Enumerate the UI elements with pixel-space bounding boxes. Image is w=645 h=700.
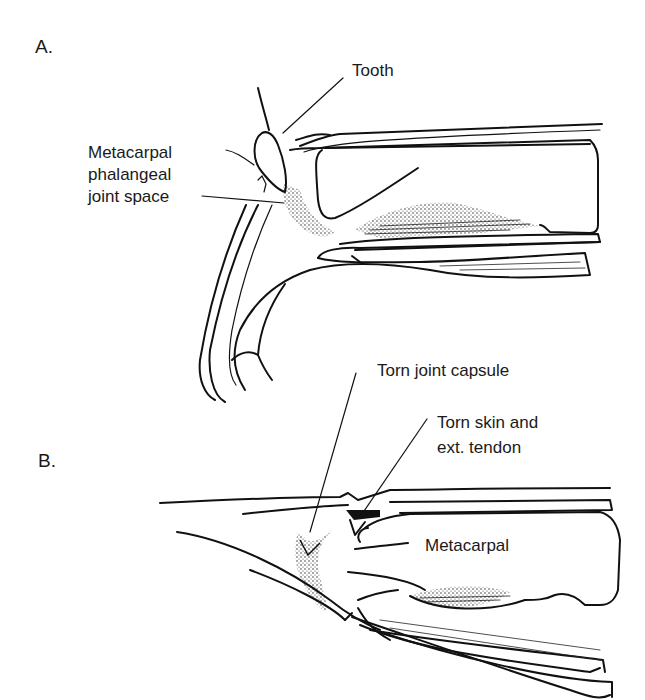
panel-b-label: B. <box>38 450 56 472</box>
torn-capsule-label: Torn joint capsule <box>377 360 509 381</box>
panel-a-label: A. <box>35 36 53 58</box>
joint-space-leader-line <box>202 196 284 203</box>
metacarpal-label: Metacarpal <box>425 535 509 556</box>
panel-b-drawing <box>160 373 620 697</box>
torn-skin-label-line-1: Torn skin and <box>437 412 538 433</box>
torn-skin-leader-line <box>362 419 427 514</box>
joint-space-label-line-2: phalangeal <box>88 164 171 185</box>
torn-capsule-leader-line <box>310 373 356 532</box>
torn-skin-label-line-2: ext. tendon <box>437 437 521 458</box>
tooth-leader-line <box>283 78 343 133</box>
panel-a-drawing <box>200 78 602 402</box>
joint-space-label-line-1: Metacarpal <box>88 142 172 163</box>
tooth-label: Tooth <box>352 60 394 81</box>
diagram-canvas: A. B. Tooth Metacarpal phalangeal joint … <box>0 0 645 700</box>
tooth-shape <box>226 88 286 192</box>
joint-space-label-line-3: joint space <box>88 186 169 207</box>
anatomy-drawing <box>0 0 645 700</box>
